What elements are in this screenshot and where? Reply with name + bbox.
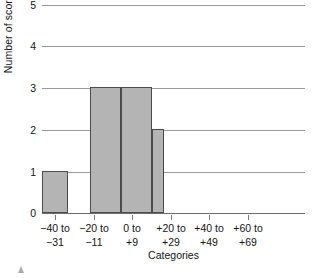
y-tick-label-5: 5 <box>24 0 36 10</box>
x-tick-label-5-line2: +69 <box>219 236 277 250</box>
bar-category-3 <box>152 129 164 213</box>
bar-category-1 <box>90 87 121 213</box>
x-tick-1 <box>94 215 95 220</box>
y-tick-label-4: 4 <box>24 41 36 51</box>
gridline-5 <box>42 5 305 6</box>
y-tick-label-1: 1 <box>24 167 36 177</box>
y-tick-label-3: 3 <box>24 83 36 93</box>
gridline-2 <box>42 130 305 131</box>
x-tick-2 <box>132 215 133 220</box>
caret-artifact-icon <box>18 266 24 273</box>
x-tick-5 <box>248 215 249 220</box>
bar-category-0 <box>42 171 68 213</box>
x-axis-title: Categories <box>42 249 305 261</box>
bar-category-2 <box>121 87 152 213</box>
x-tick-label-5: +60 to +69 <box>219 222 277 249</box>
y-axis-title: Number of scores <box>2 0 16 86</box>
gridline-1 <box>42 172 305 173</box>
gridline-3 <box>42 88 305 89</box>
x-tick-3 <box>171 215 172 220</box>
plot-area <box>42 5 305 214</box>
histogram-figure: Number of scores 5 4 3 2 1 0 −40 to −31 … <box>0 0 318 278</box>
x-tick-0 <box>55 215 56 220</box>
y-tick-label-2: 2 <box>24 125 36 135</box>
x-tick-label-5-line1: +60 to <box>219 222 277 236</box>
y-tick-label-0: 0 <box>24 208 36 218</box>
x-tick-4 <box>209 215 210 220</box>
x-axis-line <box>42 213 305 214</box>
gridline-4 <box>42 46 305 47</box>
